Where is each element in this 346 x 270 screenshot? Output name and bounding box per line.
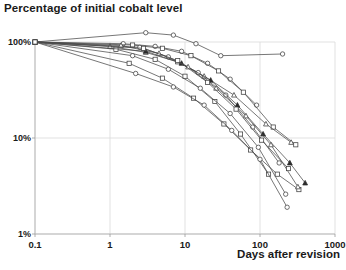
data-point-marker-circle bbox=[171, 85, 175, 89]
data-point-marker-circle bbox=[202, 103, 206, 107]
y-tick-label: 10% bbox=[13, 133, 31, 143]
data-point-marker-square bbox=[286, 167, 290, 171]
data-point-marker-square bbox=[183, 74, 187, 78]
data-point-marker-circle bbox=[285, 205, 289, 209]
data-point-marker-square bbox=[275, 172, 279, 176]
data-point-marker-circle bbox=[277, 161, 281, 165]
data-point-marker-square bbox=[153, 57, 157, 61]
data-point-marker-circle bbox=[224, 93, 228, 97]
data-point-marker-square bbox=[241, 90, 245, 94]
data-point-marker-circle bbox=[280, 52, 284, 56]
data-point-marker-square bbox=[189, 54, 193, 58]
data-point-marker-circle bbox=[133, 71, 137, 75]
data-point-marker-square bbox=[259, 138, 263, 142]
data-point-marker-circle bbox=[219, 54, 223, 58]
data-point-marker-square bbox=[234, 107, 238, 111]
data-point-marker-square bbox=[238, 132, 242, 136]
data-point-marker-circle bbox=[228, 111, 232, 115]
data-point-marker-square bbox=[216, 69, 220, 73]
data-point-marker-circle bbox=[230, 128, 234, 132]
data-point-marker-square bbox=[160, 46, 164, 50]
data-point-marker-circle bbox=[258, 157, 262, 161]
data-point-marker-square bbox=[176, 59, 180, 63]
chart-root: Percentage of initial cobalt level 100%1… bbox=[0, 0, 346, 270]
x-tick-label: 1 bbox=[107, 239, 112, 250]
data-point-marker-circle bbox=[254, 103, 258, 107]
x-axis-title: Days after revision bbox=[237, 248, 340, 260]
data-point-marker-circle bbox=[144, 31, 148, 35]
data-point-marker-circle bbox=[166, 67, 170, 71]
data-point-marker-circle bbox=[198, 86, 202, 90]
data-point-marker-square bbox=[127, 61, 131, 65]
chart-plot-area bbox=[0, 0, 346, 270]
data-point-marker-square bbox=[205, 80, 209, 84]
data-point-marker-square bbox=[33, 40, 37, 44]
x-tick-label: 10 bbox=[180, 239, 191, 250]
data-point-marker-circle bbox=[194, 42, 198, 46]
data-point-marker-square bbox=[130, 43, 134, 47]
data-point-marker-circle bbox=[283, 192, 287, 196]
data-point-marker-square bbox=[294, 143, 298, 147]
y-tick-label: 100% bbox=[8, 37, 31, 47]
data-point-marker-circle bbox=[256, 145, 260, 149]
data-point-marker-circle bbox=[130, 54, 134, 58]
y-tick-label: 1% bbox=[18, 229, 31, 239]
data-point-marker-circle bbox=[171, 33, 175, 37]
data-point-marker-square bbox=[141, 46, 145, 50]
data-point-marker-square bbox=[222, 122, 226, 126]
x-tick-label: 0.1 bbox=[28, 239, 41, 250]
data-point-marker-square bbox=[160, 76, 164, 80]
